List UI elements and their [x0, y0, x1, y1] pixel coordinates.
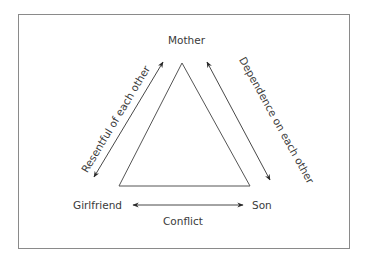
edge-conflict-label: Conflict	[163, 216, 203, 227]
node-mother-label: Mother	[168, 35, 205, 46]
node-son-label: Son	[252, 200, 272, 211]
node-girlfriend-label: Girlfriend	[73, 200, 122, 211]
